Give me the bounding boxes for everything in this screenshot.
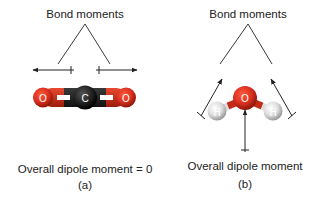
co2-molecule: O C O (33, 86, 136, 110)
atom-label: O (122, 93, 130, 104)
panel-a-bond-moments-label: Bond moments (46, 9, 123, 21)
panel-a-left-bond-arrow (33, 66, 74, 74)
panel-a-right-bond-arrow (96, 66, 137, 74)
atom-label: O (241, 93, 249, 104)
atom-label: H (213, 107, 220, 118)
panel-b-bond-moments-label: Bond moments (209, 9, 286, 21)
panel-a-overall-dipole-label: Overall dipole moment = 0 (18, 164, 153, 176)
panel-a-caption: (a) (78, 180, 92, 192)
atom-label: O (39, 93, 47, 104)
panel-b-overall-dipole-arrow (241, 110, 249, 152)
panel-b-callout-lines (220, 24, 272, 64)
panel-b-caption: (b) (238, 179, 252, 191)
panel-b-overall-dipole-label: Overall dipole moment (187, 161, 302, 173)
dipole-moment-diagram: O C O O H H (0, 0, 315, 203)
atom-label: H (269, 107, 276, 118)
atom-label: C (81, 93, 88, 104)
panel-a-callout-lines (58, 24, 110, 64)
